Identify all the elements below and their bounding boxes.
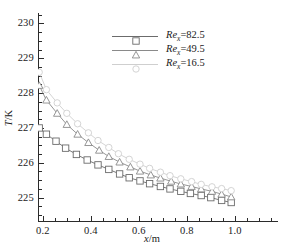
x-tick-label: 0.2	[36, 226, 50, 237]
data-point-marker	[157, 169, 163, 175]
x-axis-variable: x	[144, 233, 149, 244]
data-point-marker	[136, 167, 143, 174]
data-point-marker	[38, 82, 43, 89]
data-point-marker	[178, 176, 184, 182]
legend-sample	[112, 30, 158, 42]
data-point-marker	[106, 166, 112, 172]
y-tick-label: 227	[18, 123, 34, 134]
x-tick-label: 1.0	[228, 226, 242, 237]
legend-marker-triangle-icon	[131, 46, 139, 54]
data-point-marker	[228, 187, 234, 193]
data-point-marker	[126, 175, 132, 181]
chart-figure: 2252262272282292300.20.40.60.81.0 x/m T/…	[0, 0, 296, 251]
chart-legend: Rex=82.5Rex=49.5Rex=16.5	[112, 29, 230, 71]
data-point-marker	[84, 157, 90, 163]
data-point-marker	[96, 147, 103, 154]
data-point-marker	[64, 110, 70, 116]
data-point-marker	[208, 194, 214, 200]
data-point-marker	[167, 186, 173, 192]
data-point-marker	[85, 130, 91, 136]
data-point-marker	[106, 144, 112, 150]
data-point-marker	[187, 190, 193, 196]
legend-sample	[112, 58, 158, 70]
series-3	[38, 69, 234, 194]
data-point-marker	[218, 185, 224, 191]
legend-item[interactable]: Rex=16.5	[112, 57, 230, 71]
y-tick-label: 229	[18, 53, 34, 64]
y-tick-label: 228	[18, 88, 34, 99]
x-tick-label: 0.4	[84, 226, 98, 237]
y-tick-label: 225	[18, 192, 34, 203]
data-point-marker	[115, 151, 121, 157]
data-point-marker	[54, 100, 60, 106]
legend-marker-circle-icon	[131, 60, 139, 68]
data-point-marker	[198, 181, 204, 187]
data-point-marker	[133, 66, 139, 72]
data-point-marker	[62, 145, 68, 151]
data-point-marker	[43, 131, 49, 137]
legend-item[interactable]: Rex=82.5	[112, 29, 230, 43]
data-point-marker	[74, 121, 80, 127]
data-point-marker	[146, 165, 152, 171]
y-tick-label: 226	[18, 158, 34, 169]
data-point-marker	[85, 139, 92, 146]
data-point-marker	[43, 96, 50, 103]
data-point-marker	[198, 192, 204, 198]
data-point-marker	[43, 86, 49, 92]
series-line	[39, 72, 231, 190]
data-point-marker	[38, 125, 42, 131]
x-tick-label: 0.8	[180, 226, 194, 237]
data-point-marker	[127, 163, 134, 170]
data-point-marker	[38, 69, 42, 75]
legend-label: Rex=82.5	[158, 30, 205, 43]
data-point-marker	[126, 156, 132, 162]
data-point-marker	[218, 197, 224, 203]
data-point-marker	[116, 158, 123, 165]
data-point-marker	[95, 162, 101, 168]
data-point-marker	[95, 137, 101, 143]
data-point-marker	[178, 188, 184, 194]
series-1	[38, 125, 234, 206]
legend-label: Rex=16.5	[158, 58, 205, 71]
data-point-marker	[157, 183, 163, 189]
data-point-marker	[137, 161, 143, 167]
data-point-marker	[147, 171, 154, 178]
series-line	[39, 85, 231, 196]
data-point-marker	[105, 153, 112, 160]
data-point-marker	[167, 172, 173, 178]
y-axis-title: T/K	[4, 110, 15, 126]
legend-item[interactable]: Rex=49.5	[112, 43, 230, 57]
legend-label: Rex=49.5	[158, 44, 205, 57]
x-axis-title: x/m	[144, 234, 160, 245]
data-point-marker	[188, 178, 194, 184]
data-point-marker	[209, 184, 215, 190]
data-point-marker	[137, 178, 143, 184]
data-point-marker	[116, 171, 122, 177]
data-point-marker	[73, 151, 79, 157]
y-axis-variable: T	[3, 120, 14, 126]
legend-marker-square-icon	[131, 32, 139, 40]
data-point-marker	[53, 138, 59, 144]
legend-sample	[112, 44, 158, 56]
data-point-marker	[146, 180, 152, 186]
data-point-marker	[132, 51, 139, 58]
y-tick-label: 230	[18, 18, 34, 29]
